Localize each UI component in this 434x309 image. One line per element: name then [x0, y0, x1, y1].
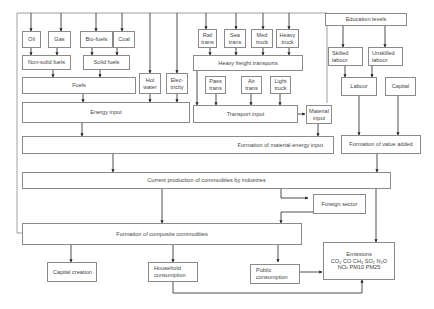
node-unskilled-labour: Unskilled labour	[368, 47, 403, 66]
node-emissions: Emissions CO₂ CO CH₄ SO₂ N₂O NOₓ PM10 PM…	[323, 242, 395, 280]
node-public-consumption: Public consumption	[250, 264, 300, 284]
node-formation-material-energy: Formation of material-energy input	[22, 136, 334, 154]
node-foreign-sector: Foreign sector	[313, 194, 366, 214]
node-transport-input: Transport input	[193, 105, 298, 123]
node-light-truck: Light truck	[270, 76, 291, 94]
node-gas: Gas	[48, 31, 71, 48]
node-biofuels: Bio-fuels	[80, 31, 113, 48]
node-material-input: Material input	[306, 105, 332, 124]
node-current-production: Current production of commodities by ind…	[22, 172, 391, 189]
node-capital: Capital	[385, 77, 416, 96]
node-labour: Labour	[341, 77, 377, 96]
node-hot-water: Hot water	[139, 73, 161, 94]
node-capital-creation: Capital creation	[47, 262, 97, 282]
node-formation-value-added: Formation of value added	[341, 135, 421, 154]
node-electricity: Elec- tricity	[166, 73, 188, 94]
node-household-consumption: Household consumption	[148, 262, 198, 282]
node-education-levels: Education levels	[325, 13, 407, 26]
node-energy-input: Energy input	[22, 102, 190, 123]
node-air-trans: Air trans	[241, 76, 262, 94]
node-heavy-freight: Heavy freight transports	[193, 55, 303, 71]
node-formation-composite: Formation of composite commodities	[22, 223, 302, 245]
node-skilled-labour: Skilled labour	[328, 47, 363, 66]
node-solid-fuels: Solid fuels	[83, 55, 130, 70]
node-sea-trans: Sea trans	[224, 29, 246, 48]
node-nonsolid-fuels: Non-solid fuels	[22, 55, 71, 70]
node-coal: Coal	[113, 31, 135, 48]
node-oil: Oil	[22, 31, 41, 48]
node-heavy-truck: Heavy truck	[276, 29, 299, 48]
node-rail-trans: Rail trans	[198, 29, 217, 48]
node-fuels: Fuels	[22, 77, 136, 94]
node-pass-trans: Pass trans	[205, 76, 226, 94]
node-med-truck: Med truck	[251, 29, 273, 48]
